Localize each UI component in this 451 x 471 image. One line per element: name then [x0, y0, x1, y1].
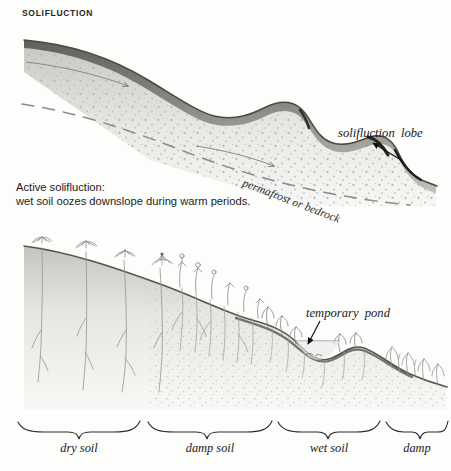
- plant-rosette-2: [76, 241, 97, 248]
- active-solifluction-caption-line1: Active solifluction:: [16, 180, 105, 195]
- lower-vegetation-diagram: [24, 237, 447, 410]
- zone-label-dry-soil: dry soil: [18, 441, 140, 456]
- solifluction-figure: SOLIFLUCTION Active solifluction: wet so…: [0, 0, 451, 471]
- brace-damp-soil: [148, 421, 272, 439]
- active-solifluction-caption-line2: wet soil oozes downslope during warm per…: [16, 194, 250, 209]
- brace-dry-soil: [18, 421, 140, 439]
- plant-rosette-4: [152, 252, 173, 265]
- zone-label-damp: damp: [386, 441, 448, 456]
- solifluction-lobe-label: solifluction lobe: [338, 126, 423, 141]
- illustration-canvas: [0, 0, 451, 471]
- temporary-pond-label: temporary pond: [306, 306, 390, 321]
- plant-rosette-3: [115, 250, 135, 257]
- plant-rosette-1: [32, 237, 52, 243]
- brace-wet-soil: [278, 421, 380, 439]
- brace-damp: [386, 421, 448, 439]
- figure-title: SOLIFLUCTION: [22, 8, 93, 18]
- zone-label-damp-soil: damp soil: [148, 441, 272, 456]
- zone-braces: [18, 421, 448, 439]
- zone-label-wet-soil: wet soil: [278, 441, 380, 456]
